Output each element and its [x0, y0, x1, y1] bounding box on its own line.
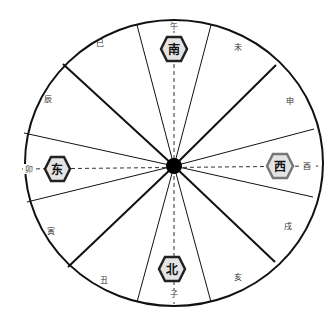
direction-east: 东 — [45, 157, 70, 181]
branch-label-si: 巳 — [96, 39, 104, 48]
branch-label-chou: 丑 — [100, 276, 108, 285]
branch-label-zi: 子 — [170, 290, 178, 299]
branch-label-mao: 卯 — [25, 165, 33, 174]
direction-label-north: 北 — [166, 262, 178, 277]
branch-label-chen: 辰 — [44, 95, 52, 104]
branch-label-xu: 戌 — [284, 221, 292, 231]
direction-label-west: 西 — [274, 160, 286, 174]
twelve-branches-compass-diagram: 午 未 申 酉 戌 亥 子 丑 寅 卯 辰 巳 南 西 北 东 — [0, 0, 334, 323]
direction-north: 北 — [159, 257, 185, 281]
branch-label-shen: 申 — [286, 96, 294, 106]
direction-west: 西 — [267, 154, 293, 178]
branch-label-you: 酉 — [303, 162, 311, 171]
branch-label-yin: 寅 — [47, 226, 55, 236]
branch-label-wu: 午 — [170, 21, 178, 31]
direction-label-east: 东 — [51, 162, 63, 177]
branch-label-wei: 未 — [234, 42, 242, 52]
direction-label-south: 南 — [168, 42, 180, 57]
center-hub — [166, 158, 182, 174]
branch-label-hai: 亥 — [234, 272, 242, 282]
direction-south: 南 — [161, 37, 187, 61]
